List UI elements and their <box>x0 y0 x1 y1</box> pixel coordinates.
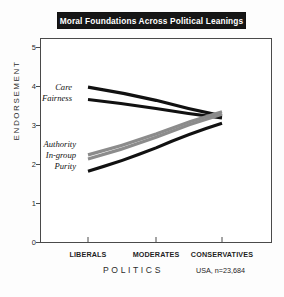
page-title: Moral Foundations Across Political Leani… <box>60 16 244 26</box>
series-label-fairness: Fairness <box>20 93 72 103</box>
series-line-purity <box>88 123 222 171</box>
x-tick-label-conservatives: CONSERVATIVES <box>177 250 267 259</box>
series-line-in-group <box>88 114 222 159</box>
y-tick-label-1: 1 <box>22 199 36 208</box>
chart-title-banner: Moral Foundations Across Political Leani… <box>57 12 246 29</box>
y-tick-label-5: 5 <box>22 43 36 52</box>
x-axis-title: POLITICS <box>78 265 188 275</box>
sample-size-note: USA, n=23,684 <box>196 266 280 275</box>
series-label-ingroup: In-group <box>20 150 76 160</box>
chart-figure: Moral Foundations Across Political Leani… <box>0 0 284 297</box>
series-label-care: Care <box>28 82 72 92</box>
series-label-purity: Purity <box>24 161 76 171</box>
series-label-authority: Authority <box>20 139 76 149</box>
y-tick-label-3: 3 <box>22 121 36 130</box>
y-tick-label-0: 0 <box>22 238 36 247</box>
x-tick-marks <box>88 237 222 243</box>
series-lines <box>88 87 222 171</box>
series-line-fairness <box>88 100 222 118</box>
